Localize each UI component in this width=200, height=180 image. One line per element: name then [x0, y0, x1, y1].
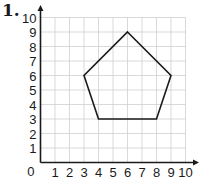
x-tick-label: 3 [80, 165, 87, 179]
x-tick-label: 9 [167, 165, 174, 179]
x-tick-label: 1 [51, 165, 58, 179]
y-tick-label: 10 [22, 11, 36, 26]
x-tick-label: 4 [95, 165, 102, 179]
tick-labels: 12345678910123456789100 [22, 11, 193, 180]
y-tick-label: 5 [29, 83, 36, 98]
origin-label: 0 [27, 164, 34, 179]
x-tick-label: 5 [109, 165, 116, 179]
y-axis-arrow-icon [38, 5, 44, 11]
x-axis-arrow-icon [193, 160, 199, 166]
y-tick-label: 4 [29, 98, 36, 113]
y-tick-label: 2 [29, 127, 36, 142]
y-tick-label: 1 [29, 141, 36, 156]
y-tick-label: 7 [29, 54, 36, 69]
y-tick-label: 9 [29, 25, 36, 40]
grid-lines [41, 18, 186, 163]
axes [38, 5, 200, 166]
x-tick-label: 2 [66, 165, 73, 179]
y-tick-label: 6 [29, 69, 36, 84]
x-tick-label: 8 [153, 165, 160, 179]
y-tick-label: 8 [29, 40, 36, 55]
x-tick-label: 7 [138, 165, 145, 179]
x-tick-label: 6 [124, 165, 131, 179]
coordinate-grid: 12345678910123456789100 [0, 0, 199, 179]
y-tick-label: 3 [29, 112, 36, 127]
x-tick-label: 10 [178, 165, 192, 179]
